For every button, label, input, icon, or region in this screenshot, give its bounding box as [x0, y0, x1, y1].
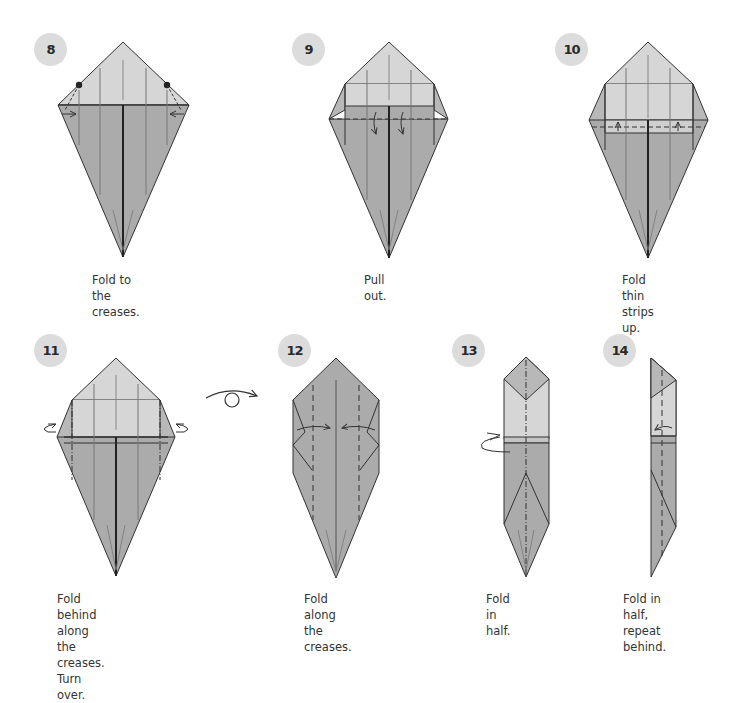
- step-number-badge: 9: [292, 33, 325, 66]
- step-12-diagram: [293, 358, 379, 578]
- step-11-diagram: [44, 358, 187, 576]
- step-number-badge: 13: [452, 334, 485, 367]
- step-caption: Fold thin strips up.: [622, 272, 654, 336]
- step-14-diagram: [651, 358, 676, 577]
- step-caption: Fold along the creases.: [304, 591, 352, 655]
- step-10-diagram: [589, 42, 708, 258]
- step-8-diagram: [58, 42, 189, 257]
- step-13-diagram: [481, 357, 549, 577]
- step-number-badge: 14: [603, 334, 636, 367]
- step-caption: Fold in half, repeat behind.: [623, 591, 666, 655]
- step-caption: Fold in half.: [486, 591, 510, 639]
- step-caption: Fold behind along the creases. Turn over…: [57, 591, 105, 703]
- step-caption: Fold to the creases.: [92, 272, 140, 320]
- turn-over-symbol: [206, 391, 257, 407]
- step-9-diagram: [329, 42, 448, 258]
- step-number-badge: 12: [278, 334, 311, 367]
- step-number-badge: 11: [34, 334, 67, 367]
- step-number-badge: 10: [555, 33, 588, 66]
- step-number-badge: 8: [34, 33, 67, 66]
- step-caption: Pull out.: [364, 272, 386, 304]
